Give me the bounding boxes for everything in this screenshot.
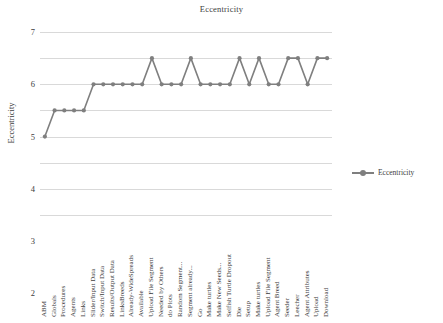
- x-axis-tick-label: Download: [323, 288, 330, 317]
- x-axis-tick-label: Upload File Segment: [265, 258, 272, 318]
- x-axis-tick-label: Agent Attributes: [304, 271, 311, 317]
- x-axis-tick-label: Already-WideSpreads: [128, 255, 135, 317]
- series-eccentricity: [40, 32, 332, 215]
- data-point: [111, 82, 115, 86]
- data-point: [189, 56, 193, 60]
- x-axis-tick-label: Globals: [51, 295, 58, 317]
- data-point: [179, 82, 183, 86]
- x-axis-tick-label: Leecher: [294, 294, 301, 317]
- x-axis-tick-label: Upload File Segment: [148, 258, 155, 318]
- data-point: [228, 82, 232, 86]
- y-axis-tick-7: 7: [31, 27, 35, 37]
- x-axis-tick-label: Agents: [70, 297, 77, 317]
- x-axis-tick-label: Agent Breed: [274, 281, 281, 317]
- x-axis-tick-label: Make turtles: [206, 282, 213, 317]
- x-axis-tick-label: Procedures: [60, 286, 67, 317]
- x-axis-tick-label: Needed by Others: [158, 266, 165, 317]
- x-axis-tick-label: Make New Seeds...: [216, 263, 223, 317]
- x-axis-tick-label: Setup: [245, 301, 252, 317]
- data-point: [91, 82, 95, 86]
- data-point: [306, 82, 310, 86]
- x-axis-tick-label: Die: [236, 307, 243, 317]
- data-point: [150, 56, 154, 60]
- x-axis-tick-label: Available: [138, 290, 145, 317]
- data-point: [130, 82, 134, 86]
- data-point: [160, 82, 164, 86]
- data-point: [296, 56, 300, 60]
- data-point: [140, 82, 144, 86]
- x-axis-tick-label: ABM: [41, 301, 48, 317]
- chart-title: Eccentricity: [0, 4, 443, 14]
- data-point: [286, 56, 290, 60]
- chart-container: Eccentricity Eccentricity 01234567 ABMGl…: [0, 0, 443, 323]
- data-point: [72, 108, 76, 112]
- y-axis-label: Eccentricity: [4, 30, 18, 215]
- plot-area: 01234567: [40, 32, 332, 215]
- x-axis-tick-label: Go: [197, 308, 204, 317]
- x-axis-labels: ABMGlobalsProceduresAgentsLinksSlider/In…: [40, 217, 332, 317]
- x-axis-tick-label: Results/Output Data: [109, 260, 116, 317]
- y-axis-tick-3: 3: [31, 236, 35, 246]
- x-axis-tick-label: Upload: [313, 296, 320, 317]
- data-point: [276, 82, 280, 86]
- data-point: [247, 82, 251, 86]
- x-axis-tick-label: Selfish Turtle Dropout: [226, 254, 233, 317]
- legend-marker-icon: [352, 169, 374, 177]
- x-axis-tick-label: do Plots: [167, 294, 174, 317]
- data-point: [315, 56, 319, 60]
- y-axis-tick-4: 4: [31, 184, 35, 194]
- chart-legend: Eccentricity: [352, 168, 414, 177]
- data-point: [82, 108, 86, 112]
- x-axis-tick-label: Segment already...: [187, 265, 194, 317]
- x-axis-tick-label: LinksBreeds: [119, 282, 126, 317]
- y-axis-tick-2: 2: [31, 288, 35, 298]
- y-axis-tick-5: 5: [31, 132, 35, 142]
- y-axis-label-text: Eccentricity: [6, 102, 16, 143]
- data-point: [208, 82, 212, 86]
- data-point: [257, 56, 261, 60]
- data-point: [267, 82, 271, 86]
- data-point: [62, 108, 66, 112]
- data-point: [325, 56, 329, 60]
- data-point: [199, 82, 203, 86]
- x-axis-tick-label: Switch/Input Data: [99, 266, 106, 317]
- y-axis-tick-6: 6: [31, 79, 35, 89]
- data-point: [53, 108, 57, 112]
- x-axis-tick-label: Links: [80, 301, 87, 317]
- series-line: [45, 58, 327, 136]
- x-axis-tick-label: Slider/Input Data: [90, 269, 97, 317]
- data-point: [121, 82, 125, 86]
- data-point: [237, 56, 241, 60]
- x-axis-tick-label: Seeder: [284, 298, 291, 317]
- data-point: [43, 134, 47, 138]
- data-point: [101, 82, 105, 86]
- data-point: [169, 82, 173, 86]
- x-axis-tick-label: Make turtles: [255, 282, 262, 317]
- gridline: 0: [40, 215, 332, 216]
- legend-label: Eccentricity: [378, 168, 414, 177]
- data-point: [218, 82, 222, 86]
- x-axis-tick-label: Random Segment...: [177, 262, 184, 317]
